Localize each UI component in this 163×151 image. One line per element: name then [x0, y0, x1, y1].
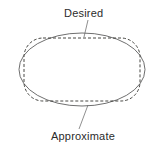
- desired-label: Desired: [64, 8, 103, 19]
- desired-leader-line: [84, 20, 88, 37]
- shape-comparison-diagram: [0, 0, 163, 151]
- approximate-leader-line: [79, 105, 88, 129]
- figure-container: Desired Approximate: [0, 0, 163, 151]
- desired-ellipse-shape: [19, 33, 145, 106]
- approximate-label: Approximate: [51, 131, 115, 142]
- approximate-rounded-rect-shape: [24, 38, 140, 101]
